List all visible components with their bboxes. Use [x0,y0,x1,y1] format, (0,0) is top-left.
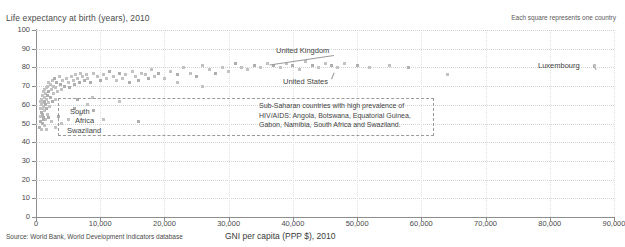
x-tick-label: 50,000 [346,219,369,228]
x-axis-title: GNI per capita (PPP $), 2010 [225,231,335,241]
y-tick-label: 30 [4,156,30,165]
gridline-horizontal [36,67,614,68]
data-point [45,128,48,131]
data-point [59,83,62,86]
y-tick-label: 0 [4,212,30,221]
data-point [81,75,84,78]
y-tick-mark [32,124,36,125]
data-point [343,62,346,65]
gridline-horizontal [36,142,614,143]
data-point [45,98,48,101]
data-point [53,77,56,80]
callout-text-line-1: Sub-Saharan countries with high prevalen… [259,101,411,111]
x-tick-label: 30,000 [217,219,240,228]
callout-text: Sub-Saharan countries with high prevalen… [259,101,411,130]
data-point [153,75,156,78]
data-point [65,77,68,80]
data-point [144,73,147,76]
data-point [124,73,127,76]
data-point [368,66,371,69]
y-tick-label: 70 [4,81,30,90]
annotation-united-kingdom: United Kingdom [276,46,329,55]
gridline-vertical [614,30,615,217]
y-tick-label: 60 [4,100,30,109]
data-point [112,75,115,78]
data-point [52,92,55,95]
gridline-horizontal [36,86,614,87]
x-axis-line [36,217,614,218]
data-point [169,70,172,73]
y-axis-title: Life expectancy at birth (years), 2010 [6,13,150,23]
data-point [176,81,179,84]
data-point [99,79,102,82]
y-tick-label: 100 [4,25,30,34]
data-point [298,68,301,71]
data-point [105,77,108,80]
data-point [50,88,53,91]
annotation-swaziland: Swaziland [67,126,101,135]
data-point [79,72,82,75]
y-tick-label: 40 [4,137,30,146]
data-point [108,70,111,73]
y-tick-label: 10 [4,193,30,202]
data-point [259,66,262,69]
data-point [356,64,359,67]
data-point [388,64,391,67]
data-point [102,73,105,76]
data-point [253,64,256,67]
annotation-south-africa-line1: South [70,107,94,116]
data-point [240,66,243,69]
data-point [54,126,57,129]
data-point [78,81,81,84]
annotation-luxembourg: Luxembourg [538,61,580,70]
callout-text-line-2: HIV/AIDS: Angola, Botswana, Equatorial G… [259,111,411,121]
data-point [131,70,134,73]
y-tick-mark [32,49,36,50]
data-point [221,66,224,69]
data-point [182,66,185,69]
data-point [85,73,88,76]
source-note: Source: World Bank, World Development In… [6,233,183,240]
data-point [246,68,249,71]
data-point [74,73,77,76]
data-point [279,66,282,69]
y-tick-mark [32,105,36,106]
data-point [317,66,320,69]
data-point [46,113,49,116]
data-point [48,105,51,108]
gridline-horizontal [36,30,614,31]
data-point [115,79,118,82]
data-point [56,90,59,93]
x-tick-label: 80,000 [538,219,561,228]
data-point [163,77,166,80]
data-point [61,79,64,82]
gridline-horizontal [36,161,614,162]
data-point [68,86,71,89]
legend-note: Each square represents one country [511,14,616,21]
data-point [96,75,99,78]
y-tick-mark [32,161,36,162]
y-tick-label: 80 [4,62,30,71]
data-point [201,64,204,67]
data-point [73,83,76,86]
data-point [128,81,131,84]
x-tick-label: 60,000 [410,219,433,228]
data-point [446,73,449,76]
y-tick-mark [32,67,36,68]
data-point [47,101,50,104]
data-point [234,62,237,65]
data-point [43,124,46,127]
y-tick-mark [32,30,36,31]
y-tick-label: 20 [4,175,30,184]
x-tick-label: 90,000 [603,219,625,228]
data-point [54,86,57,89]
data-point [60,88,63,91]
data-point [147,77,150,80]
y-tick-mark [32,142,36,143]
y-tick-label: 50 [4,119,30,128]
data-point [407,66,410,69]
data-point [330,64,333,67]
data-point [47,116,50,119]
data-point [63,85,66,88]
